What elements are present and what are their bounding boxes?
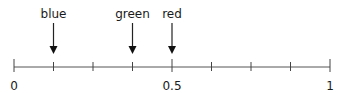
- marker-label: red: [162, 7, 182, 21]
- tick-labels-group: 00.51: [10, 79, 334, 93]
- marker-blue: blue: [41, 7, 67, 54]
- tick-label: 0: [10, 79, 18, 93]
- marker-green: green: [115, 7, 150, 54]
- marker-red: red: [162, 7, 182, 54]
- arrow-down-icon: [168, 46, 176, 54]
- arrow-down-icon: [129, 46, 137, 54]
- marker-label: green: [115, 7, 150, 21]
- number-line-diagram: 00.51 bluegreenred: [0, 0, 339, 93]
- tick-label: 0.5: [162, 79, 181, 93]
- tick-label: 1: [326, 79, 334, 93]
- markers-group: bluegreenred: [41, 7, 182, 54]
- marker-label: blue: [41, 7, 67, 21]
- ticks-group: [14, 59, 330, 72]
- arrow-down-icon: [50, 46, 58, 54]
